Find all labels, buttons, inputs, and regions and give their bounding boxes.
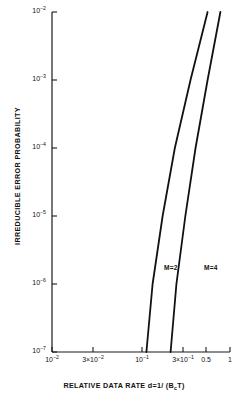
x-axis-title-main: RELATIVE DATA RATE d=1/ (B xyxy=(63,381,174,390)
curve-annotation-M4: M=4 xyxy=(204,264,218,271)
curve-M2 xyxy=(146,12,207,352)
x-tick-label: 1 xyxy=(208,356,248,363)
x-tick-label: 10−1 xyxy=(120,356,164,363)
curve-annotation-M2: M=2 xyxy=(164,264,178,271)
data-curves xyxy=(146,12,220,352)
chart-figure: 10−210−310−410−510−610−7 10−23×10−210−13… xyxy=(0,0,248,403)
y-tick-label: 10−2 xyxy=(16,7,46,14)
x-axis-title: RELATIVE DATA RATE d=1/ (BcT) xyxy=(0,381,248,391)
y-axis-title: IRREDUCIBLE ERROR PROBABILITY xyxy=(13,52,22,300)
x-tick-label: 3×10−2 xyxy=(71,356,115,363)
x-tick-label: 10−2 xyxy=(30,356,74,363)
y-tick-label: 10−7 xyxy=(16,347,46,354)
x-tick-marks xyxy=(52,347,230,352)
axis-lines xyxy=(52,12,230,352)
plot-canvas xyxy=(0,0,248,403)
y-tick-marks xyxy=(52,12,57,352)
x-axis-title-tail: T) xyxy=(177,381,184,390)
